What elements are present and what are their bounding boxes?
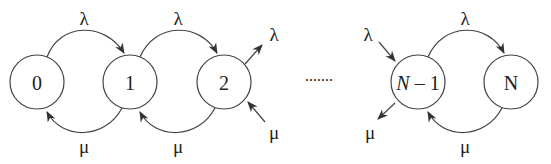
state-n-minus-1-var: N <box>396 72 409 94</box>
edge-n-to-n-minus-1-label: μ <box>460 137 470 156</box>
edge-1-to-0-label: μ <box>79 137 89 156</box>
state-n-minus-1-label: N – 1 <box>396 73 439 93</box>
edge-into-2-label: μ <box>269 123 279 142</box>
edge-n-minus-1-out-arrow <box>378 103 395 119</box>
state-2-label: 2 <box>219 73 229 93</box>
edge-1-to-2-arrow <box>140 30 217 57</box>
state-1-label: 1 <box>125 73 135 93</box>
edge-2-to-1-arrow <box>140 108 215 133</box>
ellipsis: ....... <box>305 68 333 84</box>
state-n-minus-1-rest: – 1 <box>410 72 440 94</box>
edge-2-out-arrow <box>245 45 262 64</box>
edge-n-minus-1-to-n-label: λ <box>460 9 469 28</box>
edge-n-minus-1-to-n-arrow <box>428 30 504 57</box>
edge-into-n-minus-1-label: λ <box>363 25 372 44</box>
edge-1-to-0-arrow <box>47 108 122 133</box>
edge-2-to-1-label: μ <box>173 137 183 156</box>
edge-1-to-2-label: λ <box>173 9 182 28</box>
edge-n-minus-1-out-label: μ <box>365 123 375 142</box>
edge-0-to-1-arrow <box>47 30 124 57</box>
state-0-label: 0 <box>32 73 42 93</box>
edge-into-2-arrow <box>248 102 265 122</box>
edge-n-to-n-minus-1-arrow <box>428 108 502 133</box>
edge-into-n-minus-1-arrow <box>379 42 395 61</box>
edge-2-out-label: λ <box>269 25 278 44</box>
state-n-label: N <box>504 73 518 93</box>
edge-0-to-1-label: λ <box>79 9 88 28</box>
